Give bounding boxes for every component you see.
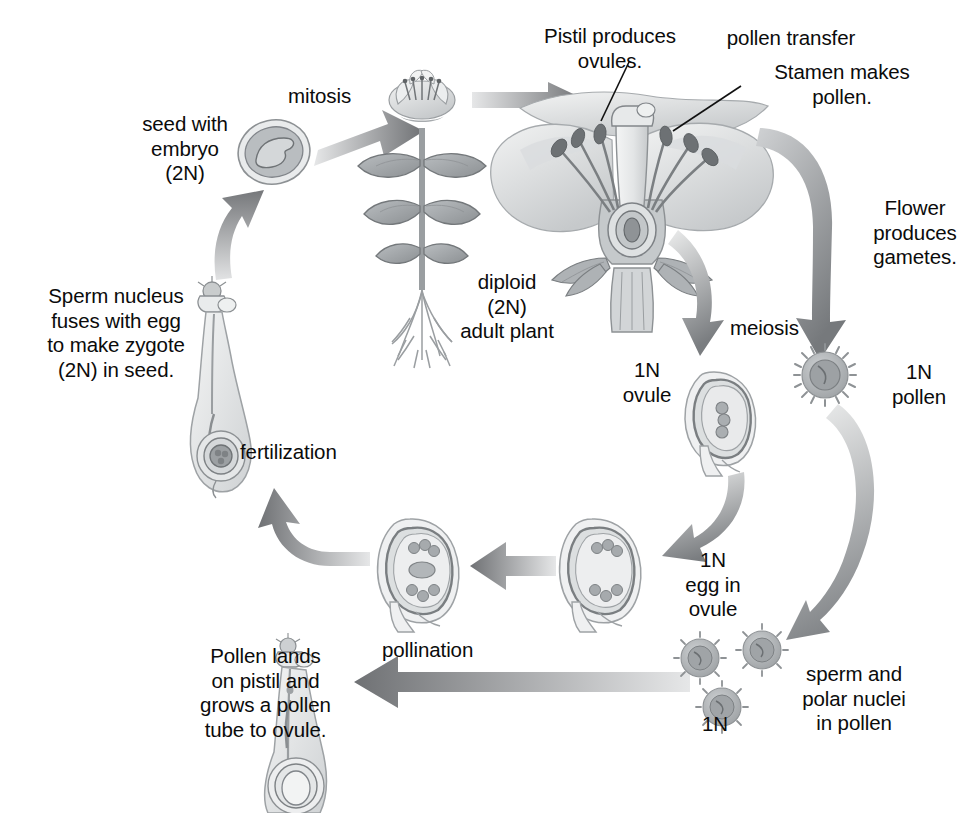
plant-life-cycle-diagram: Pistil produces ovules. pollen transfer … — [0, 0, 974, 813]
pollen-to-sperm-arrow — [786, 404, 874, 640]
label-stamen-makes-pollen: Stamen makes pollen. — [742, 60, 942, 109]
label-flower-produces-gametes: Flower produces gametes. — [857, 196, 973, 270]
ovule-illustration — [685, 372, 756, 476]
label-1n-egg-in-ovule: 1N egg in ovule — [668, 548, 758, 622]
egg-in-ovule-illustration — [560, 519, 641, 632]
label-seed-with-embryo: seed with embryo (2N) — [115, 112, 255, 186]
label-meiosis: meiosis — [730, 316, 840, 341]
label-fertilization: fertilization — [240, 440, 390, 465]
label-pollen-lands-on-pistil: Pollen lands on pistil and grows a polle… — [178, 644, 353, 742]
label-mitosis: mitosis — [288, 84, 398, 109]
label-pollination: pollination — [382, 638, 522, 663]
label-sperm-nucleus-fuses: Sperm nucleus fuses with egg to make zyg… — [26, 284, 206, 382]
fertilization-to-seed-arrow — [215, 190, 264, 280]
label-diploid-adult-plant: diploid (2N) adult plant — [432, 270, 582, 344]
label-1n-ovule: 1N ovule — [608, 358, 686, 407]
embryo-sac-left-arrow — [470, 542, 556, 590]
label-pollen-transfer: pollen transfer — [706, 26, 876, 51]
pollination-arrow — [354, 656, 690, 708]
pollen-grain-illustration — [794, 344, 856, 406]
label-sperm-and-polar-nuclei: sperm and polar nuclei in pollen — [774, 662, 934, 736]
embryo-sac-to-fertilization-arrow — [258, 488, 370, 566]
label-1n-pollen: 1N pollen — [874, 360, 964, 409]
label-pistil-produces-ovules: Pistil produces ovules. — [520, 24, 700, 73]
label-1n-bottom: 1N — [690, 712, 740, 737]
mature-embryo-sac-illustration — [378, 519, 459, 632]
